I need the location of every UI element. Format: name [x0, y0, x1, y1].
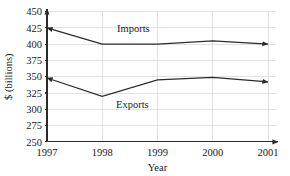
- x-tick-label: 1997: [37, 147, 58, 158]
- y-tick-label: 400: [26, 39, 42, 50]
- y-tick-label: 275: [26, 120, 42, 131]
- x-tick-label: 2001: [258, 147, 279, 158]
- line-chart-figure: 450 425 400 375 350 325 300 275 250 1997…: [0, 0, 290, 176]
- chart-canvas: 450 425 400 375 350 325 300 275 250 1997…: [0, 0, 290, 176]
- x-tick-label: 1999: [147, 147, 168, 158]
- x-tick-label: 1998: [92, 147, 113, 158]
- y-tick-label: 425: [26, 23, 42, 34]
- y-axis-tick-labels: 450 425 400 375 350 325 300 275 250: [26, 6, 42, 147]
- x-axis-title: Year: [148, 162, 168, 173]
- y-tick-label: 375: [26, 55, 42, 66]
- y-tick-label: 325: [26, 88, 42, 99]
- y-tick-label: 300: [26, 104, 42, 115]
- y-tick-label: 350: [26, 71, 42, 82]
- series-label-imports: Imports: [117, 23, 150, 34]
- y-axis-title: $ (billions): [3, 53, 15, 100]
- y-tick-label: 450: [26, 6, 42, 17]
- x-tick-label: 2000: [202, 147, 223, 158]
- series-label-exports: Exports: [116, 99, 149, 110]
